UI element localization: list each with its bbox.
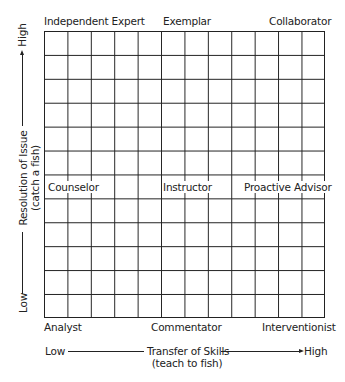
y-axis-line-upper	[22, 55, 23, 126]
label-independent-expert: Independent Expert	[44, 15, 145, 27]
label-exemplar: Exemplar	[163, 15, 211, 27]
label-collaborator: Collaborator	[269, 15, 331, 27]
x-axis-line-left	[68, 351, 144, 352]
y-axis-subtitle: (catch a fish)	[29, 128, 41, 228]
arrow-up-icon	[20, 50, 24, 55]
y-axis-high: High	[16, 20, 28, 50]
label-instructor: Instructor	[162, 181, 213, 193]
x-axis-high: High	[304, 345, 327, 357]
y-axis-line-lower	[22, 232, 23, 294]
label-commentator: Commentator	[151, 321, 222, 333]
y-axis-title: Resolution of Issue	[17, 128, 29, 228]
label-analyst: Analyst	[44, 321, 82, 333]
x-axis-subtitle: (teach to fish)	[147, 357, 227, 369]
label-interventionist: Interventionist	[262, 321, 336, 333]
x-axis-title: Transfer of Skills	[147, 345, 227, 357]
label-counselor: Counselor	[47, 181, 100, 193]
x-axis-line-right	[221, 351, 299, 352]
label-proactive-advisor: Proactive Advisor	[243, 181, 333, 193]
x-axis-low: Low	[45, 345, 65, 357]
matrix-grid	[44, 31, 325, 318]
y-axis-low: Low	[17, 288, 29, 318]
